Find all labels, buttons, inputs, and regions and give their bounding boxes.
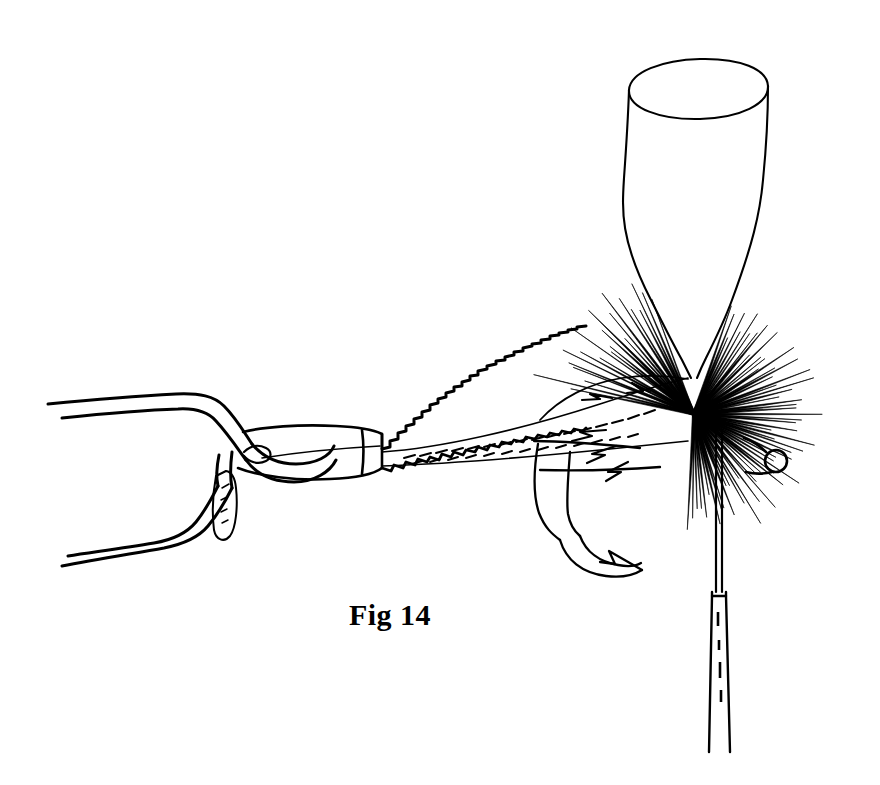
line-drawing-canvas (0, 0, 880, 785)
figure-illustration: Fig 14 (0, 0, 880, 785)
figure-caption: Fig 14 (0, 600, 780, 630)
